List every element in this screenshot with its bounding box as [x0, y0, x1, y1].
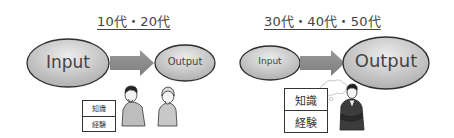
knowledge-label: 知識: [83, 101, 115, 116]
experience-label: 経験: [285, 110, 327, 132]
right-output-label: Output: [343, 50, 429, 71]
right-knowledge-box: 知識 経験: [284, 88, 328, 133]
left-panel-title: 10代・20代: [97, 11, 170, 30]
experience-label: 経験: [83, 116, 115, 132]
right-input-label: Input: [240, 56, 300, 66]
left-arrow: [110, 50, 154, 76]
left-output-label: Output: [155, 56, 215, 67]
thinking-young-man-icon: [122, 86, 145, 126]
right-arrow: [300, 50, 345, 76]
left-input-label: Input: [27, 52, 109, 72]
left-knowledge-box: 知識 経験: [82, 100, 116, 132]
knowledge-label: 知識: [285, 89, 327, 110]
right-panel-title: 30代・40代・50代: [264, 11, 381, 30]
thinking-young-woman-icon: [158, 87, 177, 126]
